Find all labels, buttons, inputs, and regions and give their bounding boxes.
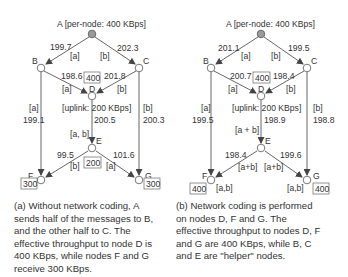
msg-c-g: [b] (143, 103, 153, 113)
msg-a-c: [b] (271, 51, 281, 61)
node-a-source (88, 30, 96, 38)
rate-a-b: 201.1 (218, 43, 240, 53)
node-g (135, 176, 143, 184)
uplink-label: [uplink: 200 KBps] (232, 103, 301, 113)
diagram-a: A [per-node: 400 KBps] B C D E F G 199.7… (21, 19, 165, 189)
rate-d-e: 200.5 (94, 115, 116, 125)
rate-c-d: 198.4 (273, 71, 295, 81)
rate-d-e: 198.9 (264, 115, 286, 125)
rate-a-c: 202.3 (117, 43, 139, 53)
caption-a-line: sends half of the messages to B, (14, 213, 174, 226)
msg-b-f: [a] (29, 103, 39, 113)
rate-b-d: 200.7 (230, 71, 252, 81)
node-a-source (257, 30, 265, 38)
msg-a-c: [b] (100, 51, 110, 61)
msg-e-g: [a] (106, 161, 116, 171)
decoded-f: [a,b] (216, 183, 233, 193)
caption-a-line: effective throughput to node D is (14, 238, 174, 251)
msg-e-g: [a+b] (264, 162, 283, 172)
node-g (303, 176, 311, 184)
throughput-e: 200 (86, 158, 101, 168)
node-label-b: B (32, 56, 38, 66)
node-label-c: C (143, 56, 149, 66)
rate-a-b: 199.7 (50, 42, 72, 52)
msg-c-d: [b] (117, 84, 127, 94)
rate-a-c: 199.5 (288, 43, 310, 53)
rate-c-d: 201.8 (104, 71, 126, 81)
rate-e-f: 198.4 (225, 150, 247, 160)
node-c (303, 64, 311, 72)
node-label-f: F (202, 171, 207, 181)
caption-b: (b) Network coding is performed on nodes… (176, 200, 344, 263)
msg-e-f: [b] (70, 161, 80, 171)
node-label-g: G (313, 171, 320, 181)
throughput-f: 300 (23, 179, 38, 189)
rate-b-f: 199.5 (192, 115, 214, 125)
msg-a-b: [a] (241, 51, 251, 61)
caption-b-line: and E are "helper" nodes. (176, 250, 344, 263)
msg-a-b: [a] (70, 51, 80, 61)
node-label-c: C (311, 56, 317, 66)
node-label-e: E (96, 136, 102, 146)
rate-e-g: 101.6 (113, 150, 135, 160)
uplink-label: [uplink: 200 KBps] (62, 103, 131, 113)
rate-c-g: 198.8 (313, 115, 335, 125)
throughput-g: 300 (146, 179, 161, 189)
source-label: A [per-node: 400 KBps] (57, 19, 146, 29)
network-coding-diagrams: A [per-node: 400 KBps] B C D E F G 199.7… (0, 0, 348, 200)
msg-c-g: [b] (313, 103, 323, 113)
msg-b-d: [a] (228, 84, 238, 94)
rate-b-f: 199.1 (23, 115, 45, 125)
node-c (135, 64, 143, 72)
rate-e-g: 199.6 (280, 150, 302, 160)
node-label-e: E (265, 136, 271, 146)
node-b (37, 64, 45, 72)
msg-c-d: [b] (286, 84, 296, 94)
msg-d-e: [a, b] (70, 129, 89, 139)
throughput-g: 400 (315, 184, 330, 194)
throughput-d: 400 (255, 73, 270, 83)
caption-b-line: effective throughput to nodes D, F (176, 225, 344, 238)
caption-a: (a) Without network coding, A sends half… (14, 200, 174, 276)
caption-a-line: 400 KBps, while nodes F and G (14, 250, 174, 263)
caption-a-line: and the other half to C. The (14, 225, 174, 238)
node-f (207, 176, 215, 184)
node-label-d: D (258, 84, 264, 94)
node-e (88, 144, 96, 152)
msg-b-d: [a] (62, 84, 72, 94)
rate-c-g: 200.3 (143, 115, 165, 125)
throughput-d: 400 (86, 73, 101, 83)
node-label-d: D (89, 84, 95, 94)
rate-e-f: 99.5 (57, 150, 74, 160)
node-e (257, 144, 265, 152)
rate-b-d: 198.6 (61, 71, 83, 81)
diagram-b: A [per-node: 400 KBps] B C D E F G 201.1… (190, 19, 335, 194)
caption-a-line: (a) Without network coding, A (14, 200, 174, 213)
node-f (37, 176, 45, 184)
node-label-b: B (203, 56, 209, 66)
source-label: A [per-node: 400 KBps] (226, 19, 315, 29)
caption-b-line: on nodes D, F and G. The (176, 213, 344, 226)
caption-b-line: (b) Network coding is performed (176, 200, 344, 213)
decoded-g: [a,b] (287, 183, 304, 193)
throughput-f: 400 (192, 184, 207, 194)
caption-a-line: receive 300 KBps. (14, 263, 174, 276)
msg-b-f: [a] (201, 103, 211, 113)
msg-d-e: [a + b] (235, 125, 259, 135)
caption-b-line: and G are 400 KBps, while B, C (176, 238, 344, 251)
msg-e-f: [a+b] (238, 162, 257, 172)
